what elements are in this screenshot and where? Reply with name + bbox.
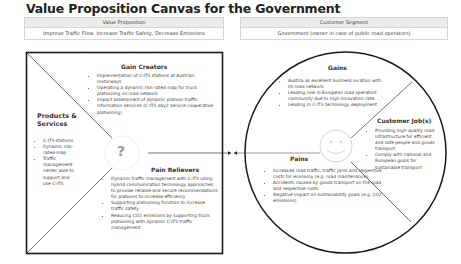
list-item: Reducing CO2 emissions by supporting tru… xyxy=(111,213,218,231)
pain-relievers-list: Dynamic traffic management with C-ITS us… xyxy=(104,176,218,231)
gains-list: Austria as excellent business location w… xyxy=(281,78,386,108)
list-item: Leading role in European road operators'… xyxy=(288,90,386,102)
list-item: Increased road traffic, traffic jams and… xyxy=(273,168,386,180)
list-item: Impact assessment of dynamic platoon tra… xyxy=(97,97,218,115)
list-item: Dynamic traffic management with C-ITS us… xyxy=(111,176,218,200)
list-item: Austria as excellent business location w… xyxy=(288,78,386,90)
question-mark-icon: ? xyxy=(117,143,125,159)
list-item: Traffic management center able to suppor… xyxy=(43,156,78,186)
products-services-list: C-ITS stations Dynamic risk-rated-map Tr… xyxy=(36,138,78,187)
gain-creators-heading: Gain Creators xyxy=(121,63,167,70)
customer-jobs-list: Providing high-quality road infrastructu… xyxy=(368,128,436,171)
list-item: Negative impact on sustainability goals … xyxy=(273,192,386,204)
list-item: Dynamic risk-rated-map xyxy=(43,144,78,156)
gain-creators-list: Implementation of C-ITS stations at Aust… xyxy=(90,73,218,116)
list-item: Operating a dynamic risk-rated map for t… xyxy=(97,85,218,97)
pain-relievers-heading: Pain Relievers xyxy=(151,166,199,173)
list-item: Leading in C-ITS technology deployment xyxy=(288,102,386,108)
pains-heading: Pains xyxy=(290,155,308,162)
pains-list: Increased road traffic, traffic jams and… xyxy=(266,168,386,205)
customer-jobs-heading: Customer Job(s) xyxy=(377,117,431,124)
gains-heading: Gains xyxy=(328,64,347,71)
smiley-face-icon xyxy=(320,130,352,162)
products-services-heading: Products & Services xyxy=(37,113,81,128)
list-item: Supporting platooning function to increa… xyxy=(111,200,218,212)
arrow-left-icon xyxy=(234,151,238,155)
list-item: Providing high-quality road infrastructu… xyxy=(375,128,436,152)
list-item: Accidents caused by goods transport on t… xyxy=(273,180,386,192)
list-item: Implementation of C-ITS stations at Aust… xyxy=(97,73,218,85)
arrow-right-icon xyxy=(228,151,232,155)
